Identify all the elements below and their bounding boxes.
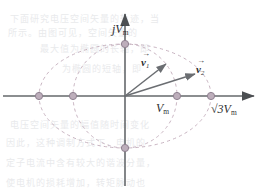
label-vector-v1-index: 1	[146, 62, 149, 69]
label-vector-v2: → v2	[196, 59, 205, 76]
label-j-vm-sub: m	[123, 28, 129, 37]
marker-pos-vm	[173, 92, 180, 99]
label-vector-v2-index: 2	[201, 69, 204, 76]
label-sqrt3-vm: √3Vm	[211, 102, 237, 117]
label-vm-sub: m	[163, 107, 169, 116]
marker-neg-j-vm	[121, 144, 128, 151]
marker-neg-vm	[69, 92, 76, 99]
vector-v1-arrow	[125, 64, 166, 96]
vector-v2-arrow	[125, 74, 195, 96]
marker-neg-sqrt3-vm	[35, 92, 42, 99]
marker-pos-sqrt3-vm	[207, 92, 214, 99]
label-sqrt3-vm-text: √3V	[211, 102, 231, 116]
marker-pos-j-vm	[121, 40, 128, 47]
label-vm: Vm	[156, 101, 169, 116]
phasor-diagram	[0, 0, 268, 191]
label-j-vm: jVm	[112, 22, 128, 37]
label-vector-v1: → v1	[141, 52, 150, 69]
label-sqrt3-vm-sub: m	[231, 108, 237, 117]
label-j-vm-text: jV	[112, 22, 123, 36]
